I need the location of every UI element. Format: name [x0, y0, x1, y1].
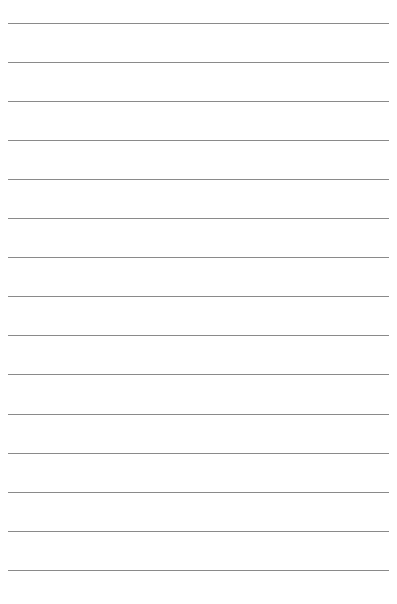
ruled-line	[8, 62, 389, 63]
ruled-line	[8, 570, 389, 571]
ruled-line	[8, 335, 389, 336]
ruled-line	[8, 257, 389, 258]
ruled-line	[8, 296, 389, 297]
ruled-line	[8, 23, 389, 24]
ruled-line	[8, 492, 389, 493]
ruled-line	[8, 374, 389, 375]
ruled-line	[8, 179, 389, 180]
lined-paper-page	[0, 0, 397, 604]
ruled-line	[8, 414, 389, 415]
ruled-line	[8, 101, 389, 102]
ruled-line	[8, 218, 389, 219]
ruled-line	[8, 140, 389, 141]
ruled-line	[8, 531, 389, 532]
ruled-line	[8, 453, 389, 454]
